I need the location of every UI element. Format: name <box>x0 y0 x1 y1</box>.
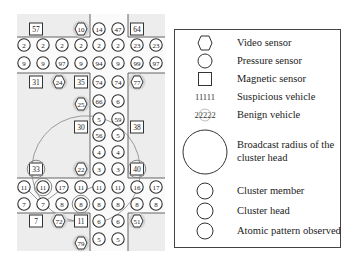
node-label: 64 <box>133 25 141 34</box>
node-label: 30 <box>77 123 85 132</box>
node-label: 6 <box>97 218 101 226</box>
node-label: 17 <box>59 184 67 192</box>
circle-icon <box>175 53 235 69</box>
node-label: 5 <box>116 236 120 244</box>
large-circle-icon <box>177 128 233 176</box>
video-sensor-node: 51 <box>129 213 146 230</box>
pressure-sensor-vehicle-node: 2 <box>75 39 87 51</box>
node-label: 5 <box>116 132 120 140</box>
pressure-sensor-vehicle-node: 74 <box>93 76 105 88</box>
video-sensor-node: 22 <box>73 161 90 178</box>
pressure-sensor-vehicle-node: 9 <box>75 57 87 69</box>
magnetic-sensor-node: 7 <box>30 215 43 227</box>
pressure-sensor-vehicle-node: 8 <box>93 198 105 210</box>
pressure-sensor-vehicle-node: 8 <box>150 198 162 210</box>
pressure-sensor-vehicle-node: 2 <box>37 39 49 51</box>
node-label: 72 <box>56 218 64 226</box>
video-sensor-node: 10 <box>73 21 90 38</box>
node-label: 97 <box>59 60 67 68</box>
node-label: 9 <box>22 60 26 68</box>
pressure-sensor-vehicle-node: 17 <box>56 181 68 193</box>
node-label: 14 <box>96 26 104 34</box>
video-sensor-node: 25 <box>73 96 90 113</box>
pressure-sensor-vehicle-node: 5 <box>112 233 124 245</box>
pressure-sensor-vehicle-node: 4 <box>93 146 105 158</box>
legend-label: Cluster member <box>237 182 304 200</box>
pressure-sensor-vehicle-node: 2 <box>93 39 105 51</box>
node-label: 8 <box>97 201 101 209</box>
node-label: 56 <box>96 132 104 140</box>
legend-label: Broadcast radius of the cluster head <box>237 138 341 164</box>
legend-label: Magnetic sensor <box>237 71 306 87</box>
legend-magnetic-sensor: Magnetic sensor <box>175 71 340 87</box>
pressure-sensor-vehicle-node: 5 <box>112 129 124 141</box>
node-label: 51 <box>134 218 142 226</box>
pressure-sensor-vehicle-node: 4 <box>112 146 124 158</box>
legend-label: Suspicious vehicle <box>237 89 315 105</box>
node-label: 99 <box>134 60 142 68</box>
pressure-sensor-vehicle-node: 74 <box>112 76 124 88</box>
legend-suspicious-vehicle: 11111 Suspicious vehicle <box>175 89 340 105</box>
square-icon <box>175 71 235 87</box>
node-label: 3 <box>116 166 120 174</box>
node-label: 8 <box>135 201 139 209</box>
node-label: 16 <box>134 184 142 192</box>
pressure-sensor-vehicle-node: 11 <box>18 181 30 193</box>
node-label: 33 <box>32 165 40 174</box>
node-label: 2 <box>79 42 83 50</box>
node-label: 17 <box>153 184 161 192</box>
node-label: 3 <box>97 166 101 174</box>
pressure-sensor-vehicle-node: 11 <box>75 181 87 193</box>
node-label: 59 <box>115 116 123 124</box>
pressure-sensor-vehicle-node: 23 <box>150 39 162 51</box>
video-sensor-node: 77 <box>129 74 146 91</box>
legend-cluster-member: Cluster member <box>175 182 340 200</box>
pressure-sensor-vehicle-node: 59 <box>112 113 124 125</box>
video-sensor-node: 24 <box>51 74 68 91</box>
pressure-sensor-vehicle-node: 2 <box>56 39 68 51</box>
legend-atomic-pattern: Atomic pattern observed <box>175 222 340 240</box>
node-label: 2 <box>22 42 26 50</box>
node-label: 11 <box>78 184 85 192</box>
node-label: 79 <box>78 240 86 248</box>
pressure-sensor-vehicle-node: 5 <box>93 113 105 125</box>
node-label: 40 <box>133 165 141 174</box>
benign-vehicle-text-icon: 22222 <box>175 107 235 123</box>
pressure-sensor-vehicle-node: 97 <box>56 57 68 69</box>
node-label: 8 <box>154 201 158 209</box>
pressure-sensor-vehicle-node: 11 <box>37 181 49 193</box>
magnetic-sensor-node: 30 <box>75 121 88 133</box>
node-label: 9 <box>116 60 120 68</box>
pressure-sensor-vehicle-node: 6 <box>112 95 124 107</box>
node-label: 9 <box>41 60 45 68</box>
node-label: 6 <box>116 98 120 106</box>
node-label: 47 <box>115 26 123 34</box>
node-label: 24 <box>56 79 64 87</box>
hexagon-icon <box>175 35 235 51</box>
node-label: 31 <box>32 78 40 87</box>
pressure-sensor-vehicle-node: 56 <box>93 129 105 141</box>
pressure-sensor-vehicle-node: 94 <box>93 57 105 69</box>
pressure-sensor-vehicle-node: 3 <box>93 163 105 175</box>
pressure-sensor-vehicle-node: 9 <box>112 57 124 69</box>
magnetic-sensor-node: 31 <box>30 76 43 88</box>
pressure-sensor-vehicle-node: 6 <box>112 215 124 227</box>
legend-video-sensor: Video sensor <box>175 35 340 51</box>
pressure-sensor-vehicle-node: 16 <box>131 181 143 193</box>
node-label: 11 <box>21 184 28 192</box>
node-label: 22 <box>78 166 86 174</box>
node-label: 2 <box>116 42 120 50</box>
pressure-sensor-vehicle-node: 7 <box>18 198 30 210</box>
pressure-sensor-vehicle-node: 47 <box>112 23 124 35</box>
pressure-sensor-vehicle-node: 6 <box>93 215 105 227</box>
legend-benign-vehicle: 22222 Benign vehicle <box>175 107 340 123</box>
pressure-sensor-vehicle-node: 23 <box>131 39 143 51</box>
pressure-sensor-vehicle-node: 9 <box>37 57 49 69</box>
node-label: 35 <box>77 78 85 87</box>
circle-icon <box>175 182 235 200</box>
legend-pressure-sensor: Pressure sensor <box>175 53 340 69</box>
legend-label: Atomic pattern observed <box>237 222 341 240</box>
node-label: 8 <box>116 201 120 209</box>
node-label: 74 <box>96 79 104 87</box>
magnetic-sensor-node: 11 <box>75 215 88 227</box>
